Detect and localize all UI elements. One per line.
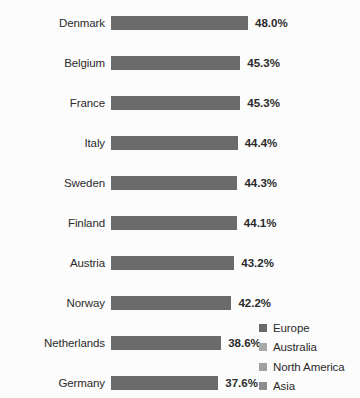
bar-value-label: 37.6% — [225, 376, 258, 390]
bar-row: France45.3% — [0, 93, 360, 113]
bar-category-label: Germany — [0, 373, 105, 393]
bar-fill — [111, 296, 231, 310]
bar-value-label: 44.4% — [245, 136, 278, 150]
bar-row: Sweden44.3% — [0, 173, 360, 193]
bar-track: 44.1% — [111, 216, 360, 230]
bar-fill — [111, 56, 240, 70]
legend-label: Asia — [273, 380, 295, 392]
bar-value-label: 45.3% — [247, 96, 280, 110]
legend-item[interactable]: Asia — [259, 377, 345, 397]
bar-category-label: Norway — [0, 293, 105, 313]
legend-swatch-icon — [259, 343, 267, 351]
bar-value-label: 44.3% — [244, 176, 277, 190]
bar-row: Belgium45.3% — [0, 53, 360, 73]
bar-value-label: 44.1% — [244, 216, 277, 230]
bar-track: 45.3% — [111, 96, 360, 110]
legend-label: North America — [273, 361, 345, 373]
bar-row: Denmark48.0% — [0, 13, 360, 33]
bar-fill — [111, 376, 218, 390]
bar-value-label: 48.0% — [255, 16, 288, 30]
bar-fill — [111, 176, 237, 190]
bar-track: 48.0% — [111, 16, 360, 30]
legend-item[interactable]: Australia — [259, 338, 345, 358]
bar-row: Italy44.4% — [0, 133, 360, 153]
legend-item[interactable]: Europe — [259, 318, 345, 338]
bar-fill — [111, 336, 221, 350]
bar-chart: Denmark48.0%Belgium45.3%France45.3%Italy… — [0, 0, 360, 398]
bar-row: Finland44.1% — [0, 213, 360, 233]
bar-value-label: 42.2% — [238, 296, 271, 310]
legend-item[interactable]: North America — [259, 357, 345, 377]
bar-value-label: 43.2% — [241, 256, 274, 270]
bar-row: Norway42.2% — [0, 293, 360, 313]
bar-category-label: Sweden — [0, 173, 105, 193]
bar-row: Austria43.2% — [0, 253, 360, 273]
legend-swatch-icon — [259, 363, 267, 371]
bar-category-label: Denmark — [0, 13, 105, 33]
bar-value-label: 38.6% — [228, 336, 261, 350]
bar-fill — [111, 256, 234, 270]
bar-fill — [111, 16, 248, 30]
bar-category-label: France — [0, 93, 105, 113]
bar-track: 43.2% — [111, 256, 360, 270]
legend-label: Australia — [273, 341, 317, 353]
legend-label: Europe — [273, 322, 309, 334]
legend-swatch-icon — [259, 324, 267, 332]
bar-category-label: Austria — [0, 253, 105, 273]
bar-track: 44.4% — [111, 136, 360, 150]
bar-fill — [111, 136, 238, 150]
chart-legend: EuropeAustraliaNorth AmericaAsia — [259, 318, 345, 396]
bar-track: 45.3% — [111, 56, 360, 70]
legend-swatch-icon — [259, 382, 267, 390]
bar-category-label: Finland — [0, 213, 105, 233]
bar-fill — [111, 96, 240, 110]
bar-track: 44.3% — [111, 176, 360, 190]
bar-value-label: 45.3% — [247, 56, 280, 70]
bar-category-label: Belgium — [0, 53, 105, 73]
bar-category-label: Italy — [0, 133, 105, 153]
bar-fill — [111, 216, 237, 230]
bar-category-label: Netherlands — [0, 333, 105, 353]
bar-track: 42.2% — [111, 296, 360, 310]
